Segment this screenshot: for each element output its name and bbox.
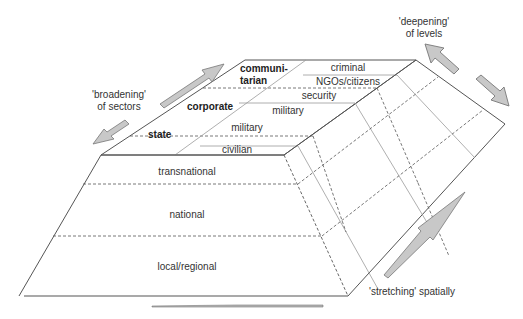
side-grid-solid-1 bbox=[298, 146, 378, 289]
subsector-ngos-citizens: NGOs/citizens bbox=[316, 76, 380, 87]
front-face-right-edge bbox=[284, 155, 348, 296]
side-grid-solid-3 bbox=[397, 75, 475, 158]
deepening-arrow-down-icon bbox=[476, 75, 509, 106]
stretching-arrow-icon bbox=[384, 192, 465, 278]
horizontal-stretch-arrow-icon bbox=[152, 305, 323, 307]
side-face-outer-edge bbox=[348, 124, 505, 296]
subsector-civilian: civilian bbox=[222, 144, 252, 155]
diagram-canvas: state corporate communi- tarian civilian… bbox=[0, 0, 523, 319]
subsector-state-military: military bbox=[231, 122, 263, 133]
sector-label-communitarian-2: tarian bbox=[240, 75, 267, 86]
front-face: transnational national local/regional bbox=[19, 155, 348, 296]
sector-label-communitarian-1: communi- bbox=[240, 63, 288, 74]
side-grid-dashed-sector-2 bbox=[377, 88, 418, 183]
deepening-arrow-up-icon bbox=[425, 44, 459, 74]
subsector-corporate-military: military bbox=[272, 105, 304, 116]
level-national: national bbox=[169, 209, 204, 220]
broadening-label-1: 'broadening' bbox=[92, 89, 146, 100]
side-grid-dashed-sector-1 bbox=[313, 136, 346, 232]
front-face-left-edge bbox=[19, 155, 101, 296]
slab-diagram: state corporate communi- tarian civilian… bbox=[0, 0, 523, 319]
subsector-criminal: criminal bbox=[331, 62, 365, 73]
side-grid-dashed-level-2 bbox=[322, 110, 483, 236]
subsector-security: security bbox=[302, 90, 336, 101]
sector-label-state: state bbox=[148, 129, 172, 140]
sector-label-corporate: corporate bbox=[187, 101, 234, 112]
level-local-regional: local/regional bbox=[158, 261, 217, 272]
top-face: state corporate communi- tarian civilian… bbox=[101, 60, 416, 155]
side-grid-solid-2 bbox=[355, 103, 431, 229]
deepening-label-2: of levels bbox=[406, 28, 443, 39]
deepening-label-1: 'deepening' bbox=[399, 16, 450, 27]
broadening-label-2: of sectors bbox=[97, 101, 140, 112]
stretching-label: 'stretching' spatially bbox=[369, 286, 455, 297]
level-transnational: transnational bbox=[158, 166, 215, 177]
